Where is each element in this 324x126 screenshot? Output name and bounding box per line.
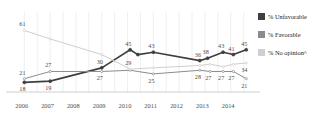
data-label: 29 [125, 59, 131, 66]
data-point [209, 70, 211, 72]
data-label: 27 [45, 61, 51, 68]
series-lines [24, 30, 246, 82]
data-point [152, 67, 154, 69]
data-point [222, 51, 225, 54]
data-point [245, 48, 248, 51]
data-label: 45 [241, 40, 247, 47]
data-label: 25 [148, 77, 154, 84]
series-markers [23, 29, 248, 83]
data-point [49, 70, 51, 72]
data-label: 30 [97, 58, 103, 65]
legend-item-favorable[interactable]: % Favorable [258, 26, 324, 42]
data-point [129, 68, 131, 70]
x-tick-label: 2009 [93, 102, 106, 109]
x-tick-label: 2012 [170, 102, 183, 109]
legend-label-unfavorable: % Unfavorable [268, 13, 307, 20]
data-point [23, 81, 26, 84]
series-line-no-opinion [24, 30, 246, 69]
data-label: 45 [125, 40, 131, 47]
data-label: 36 [195, 51, 201, 58]
data-point [198, 59, 201, 62]
data-label: 27 [218, 74, 224, 81]
data-point [101, 70, 103, 72]
data-point [232, 63, 234, 65]
series-line-favorable [24, 70, 246, 78]
legend-swatch-no-opinion [258, 49, 265, 56]
data-label: 61 [19, 20, 25, 27]
series-line-unfavorable [24, 50, 246, 83]
data-point [222, 66, 224, 68]
data-point [49, 80, 52, 83]
data-point [245, 78, 247, 80]
legend-label-no-opinion: % No opinion^ [268, 49, 307, 56]
data-label: 28 [195, 73, 201, 80]
x-tick-label: 2014 [222, 102, 235, 109]
data-label: 41 [228, 45, 234, 52]
data-point [222, 70, 224, 72]
data-label: 27 [97, 74, 103, 81]
legend-item-no-opinion[interactable]: % No opinion^ [258, 44, 324, 60]
data-label: 19 [45, 84, 51, 91]
data-label: 18 [19, 85, 25, 92]
data-point [209, 63, 211, 65]
data-label: 38 [203, 48, 209, 55]
data-label: 27 [205, 74, 211, 81]
data-label: 43 [148, 42, 154, 49]
data-label: 43 [218, 42, 224, 49]
x-tick-label: 2013 [196, 102, 209, 109]
data-label: 21 [19, 69, 25, 76]
data-label: 21 [241, 82, 247, 89]
x-tick-label: 2006 [15, 102, 28, 109]
x-tick-label: 2010 [119, 102, 132, 109]
data-point [245, 62, 247, 64]
chart-root: 1819304543363843414521272725282727272161… [0, 0, 324, 126]
data-label: 34 [241, 66, 247, 73]
data-point [232, 53, 235, 56]
data-point [199, 69, 201, 71]
data-point [129, 48, 132, 51]
x-tick-label: 2008 [67, 102, 80, 109]
legend-label-favorable: % Favorable [268, 31, 300, 38]
data-point [232, 70, 234, 72]
data-point [152, 73, 154, 75]
data-point [199, 64, 201, 66]
data-point [152, 51, 155, 54]
data-label: 27 [228, 74, 234, 81]
legend-item-unfavorable[interactable]: % Unfavorable [258, 8, 324, 24]
data-point [136, 53, 139, 56]
legend-swatch-favorable [258, 31, 265, 38]
data-point [101, 53, 103, 55]
data-point [23, 78, 25, 80]
chart-legend: % Unfavorable% Favorable% No opinion^ [258, 8, 324, 62]
data-point [206, 57, 209, 60]
data-point [100, 66, 103, 69]
data-point [23, 29, 25, 31]
legend-swatch-unfavorable [258, 13, 265, 20]
data-point [49, 38, 51, 40]
x-tick-label: 2011 [144, 102, 157, 109]
plot-area: 1819304543363843414521272725282727272161… [0, 6, 262, 126]
x-tick-label: 2007 [41, 102, 54, 109]
